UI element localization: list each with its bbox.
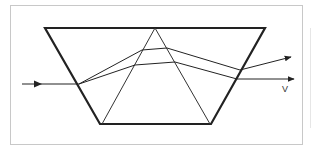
trapezoid-prism [45,28,265,124]
prism-diagram [0,0,318,148]
upper-refracted-ray [79,48,240,84]
exit-ray-label: V [282,84,288,94]
inner-triangle [102,28,210,124]
lower-refracted-ray [79,62,237,84]
incident-arrow-icon [34,81,42,88]
